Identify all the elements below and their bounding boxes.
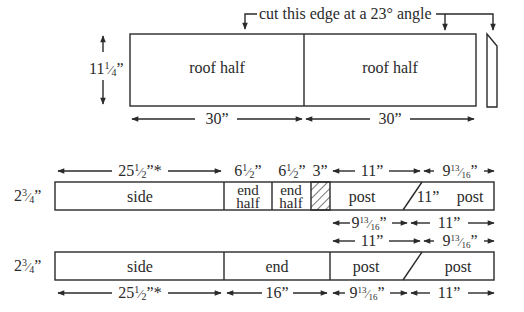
board1-bottom-dim-2: 11” <box>438 214 461 231</box>
board2-top-dim-1: 11” <box>361 232 384 249</box>
board1-height-label: 23⁄4” <box>14 187 41 205</box>
board2-bottom-dim-post-1: 913⁄16” <box>349 284 384 302</box>
roof-board: roof half roof half 111⁄4” 30” 30” <box>89 34 497 127</box>
board1-dim-side: 251⁄2”* <box>118 162 161 180</box>
board2-label-post-1: post <box>353 258 380 276</box>
board1-dim-post-2: 913⁄16” <box>442 162 477 180</box>
board1-dim-endhalf-1: 61⁄2” <box>234 162 261 180</box>
board2-bottom-dim-side: 251⁄2”* <box>118 284 161 302</box>
board2-label-end: end <box>265 258 288 275</box>
bevel-profile-icon <box>487 34 497 107</box>
roof-width-label-1: 30” <box>205 110 228 127</box>
board1-label-endhalf-2b: half <box>279 195 302 211</box>
board2-top-dim-2: 913⁄16” <box>442 232 477 250</box>
board1-label-side: side <box>127 188 153 205</box>
board2-bottom-dim-end: 16” <box>265 284 288 301</box>
roof-width-label-2: 30” <box>378 110 401 127</box>
cut-arrow-left-icon <box>245 14 257 29</box>
board2-angled-cut <box>403 252 422 280</box>
board2-height-label: 23⁄4” <box>14 257 41 275</box>
board1-dim-post-1: 11” <box>361 162 384 179</box>
board2-label-post-2: post <box>445 258 472 276</box>
board1-bottom-dim-1: 913⁄16” <box>351 214 386 232</box>
roof-board-outline <box>130 34 476 106</box>
board1-label-11: 11” <box>417 188 440 205</box>
board1-label-endhalf-1b: half <box>236 195 259 211</box>
board2-bottom-dim-post-2: 11” <box>438 284 461 301</box>
roof-height-label: 111⁄4” <box>89 60 124 78</box>
board1-label-post-1: post <box>349 188 376 206</box>
board1-dim-endhalf-2: 61⁄2” <box>278 162 305 180</box>
cut-diagram: cut this edge at a 23° angle roof half r… <box>0 0 524 312</box>
board2-label-side: side <box>127 258 153 275</box>
board1-label-post-2: post <box>457 188 484 206</box>
board-2: 11” 913⁄16” 23⁄4” side end post post 251… <box>14 232 494 302</box>
cut-annotation: cut this edge at a 23° angle <box>245 5 493 30</box>
waste-hatch-icon <box>311 182 330 210</box>
roof-half-label-1: roof half <box>189 59 245 76</box>
cut-note-text: cut this edge at a 23° angle <box>259 5 432 23</box>
board1-dim-hatch: 3” <box>312 162 327 179</box>
roof-half-label-2: roof half <box>362 59 418 76</box>
board-1: 251⁄2”* 61⁄2” 61⁄2” 3” 11” 913⁄16” 23⁄4”… <box>14 162 494 232</box>
